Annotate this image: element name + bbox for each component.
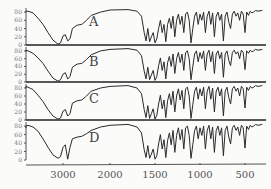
spectrum-line-d [26,124,262,159]
y-tick-label: 80 [14,122,22,129]
spectrum-line-b [26,49,262,82]
ir-spectra-chart: 020406080A020406080B020406080C020406080D… [0,0,271,189]
y-tick-label: 20 [14,33,22,40]
y-tick-label: 40 [14,139,22,146]
y-tick-label: 80 [14,47,22,54]
spectrum-line-c [26,86,262,120]
y-tick-label: 60 [14,55,22,62]
panel-label-d: D [89,130,99,145]
y-tick-label: 60 [14,131,22,138]
y-tick-label: 0 [18,156,22,163]
x-tick-label: 3000 [50,169,75,180]
y-tick-label: 80 [14,84,22,91]
x-tick-label: 1500 [142,169,167,180]
spectrum-line-a [26,10,262,45]
panel-label-a: A [88,14,99,29]
y-tick-label: 40 [14,100,22,107]
y-tick-label: 20 [14,108,22,115]
y-tick-label: 40 [14,62,22,69]
panel-d: 020406080D [14,122,262,163]
y-tick-label: 40 [14,25,22,32]
panel-b: 020406080B [14,47,266,85]
y-tick-label: 60 [14,16,22,23]
x-tick-label: 1000 [187,169,212,180]
panel-c: 020406080C [14,84,266,123]
y-tick-label: 20 [14,70,22,77]
panel-label-b: B [89,54,99,69]
panel-label-c: C [89,91,99,106]
y-tick-label: 80 [14,8,22,15]
x-tick-label: 500 [235,169,254,180]
y-tick-label: 20 [14,148,22,155]
panel-a: 020406080A [14,8,266,48]
x-axis-line [26,164,266,165]
y-tick-label: 60 [14,92,22,99]
x-tick-label: 2000 [97,169,122,180]
